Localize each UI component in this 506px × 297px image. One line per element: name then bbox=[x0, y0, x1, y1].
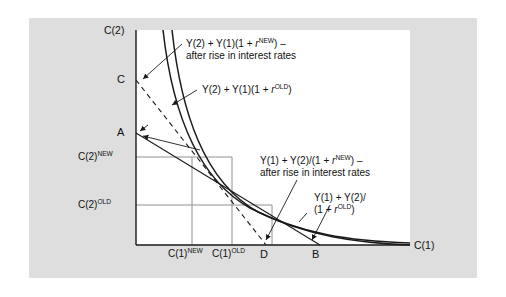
point-label-b: B bbox=[312, 248, 319, 260]
leader-wealth-new bbox=[266, 180, 297, 240]
curves bbox=[163, 30, 410, 245]
point-label-a: A bbox=[117, 126, 124, 138]
annotation-budget-old: Y(2) + Y(1)(1 + rOLD) bbox=[202, 84, 292, 96]
annotation-budget-new-line1: Y(2) + Y(1)(1 + rNEW) – bbox=[186, 38, 296, 50]
annotation-wealth-old-line2: (1 + rOLD) bbox=[314, 204, 366, 216]
gridline-label-c1-new: C(1)NEW bbox=[168, 248, 203, 260]
figure-container: C(2) C(1) C A D B C(2)NEW C(2)OLD C(1)NE… bbox=[0, 0, 506, 297]
annotation-wealth-new-line1: Y(1) + Y(2)/(1 + rNEW) – bbox=[260, 155, 370, 167]
gridline-label-c2-new: C(2)NEW bbox=[78, 151, 113, 163]
point-label-d: D bbox=[260, 248, 268, 260]
x-axis-label: C(1) bbox=[414, 239, 434, 251]
point-label-c: C bbox=[117, 73, 125, 85]
annotation-wealth-new-line2: after rise in interest rates bbox=[260, 167, 370, 179]
line-c-to-d-dashed bbox=[136, 80, 266, 245]
curve-budget-old bbox=[172, 30, 410, 245]
gridline-label-c2-old: C(2)OLD bbox=[78, 199, 111, 211]
annotation-wealth-new: Y(1) + Y(2)/(1 + rNEW) – after rise in i… bbox=[260, 155, 370, 179]
annotation-budget-new-line2: after rise in interest rates bbox=[186, 50, 296, 62]
gridlines bbox=[136, 157, 272, 245]
leader-lines bbox=[140, 44, 330, 240]
y-axis-label: C(2) bbox=[104, 24, 124, 36]
annotation-wealth-old: Y(1) + Y(2)/ (1 + rOLD) bbox=[314, 192, 366, 216]
gridline-label-c1-old: C(1)OLD bbox=[212, 248, 245, 260]
leader-point-a-upper bbox=[140, 125, 148, 131]
annotation-budget-new: Y(2) + Y(1)(1 + rNEW) – after rise in in… bbox=[186, 38, 296, 62]
leader-wealth-old-tick bbox=[299, 213, 307, 222]
